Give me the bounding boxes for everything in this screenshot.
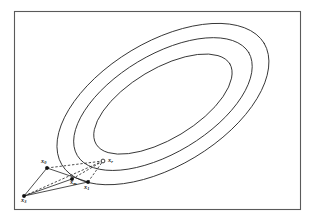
point-label-xm-sub: m [73,181,76,186]
point-label-x0: x0 [41,158,46,164]
vertex-x0 [45,166,48,169]
point-label-xm: xm [70,179,76,185]
vertex-xr [101,159,105,163]
contour-diagram-svg [0,0,317,221]
point-label-x2: x3 [21,197,26,203]
point-label-xr-sub: r [111,159,113,164]
point-label-xr: xr [108,157,113,163]
point-label-x1: x1 [84,184,89,190]
figure-frame [15,12,301,210]
figure-root: x0 xm x1 xr x3 [0,0,317,221]
